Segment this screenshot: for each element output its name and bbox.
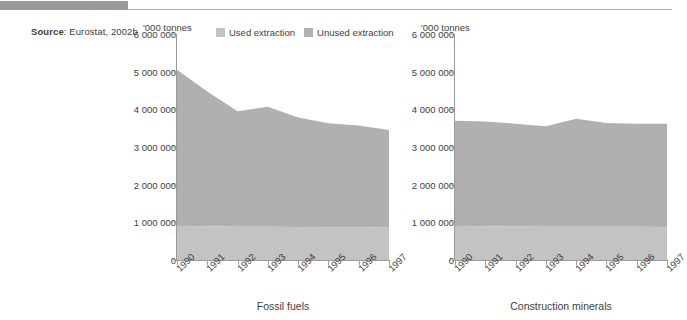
y-axis-tick-mark bbox=[172, 109, 176, 110]
y-axis-tick-mark bbox=[172, 222, 176, 223]
x-axis-tick-mark bbox=[485, 261, 486, 265]
y-axis-tick-label: 4 000 000 bbox=[412, 104, 454, 115]
x-axis-tick-mark bbox=[238, 261, 239, 265]
x-axis-tick-mark bbox=[268, 261, 269, 265]
x-axis-tick-mark bbox=[455, 261, 456, 265]
area-band-unused-extraction bbox=[455, 119, 667, 227]
x-axis-tick-mark bbox=[359, 261, 360, 265]
y-axis-tick-label: 6 000 000 bbox=[412, 29, 454, 40]
x-axis-tick-mark bbox=[667, 261, 668, 265]
y-axis-tick-label: 4 000 000 bbox=[134, 104, 176, 115]
y-axis-tick-label: 5 000 000 bbox=[134, 66, 176, 77]
x-axis-tick-mark bbox=[576, 261, 577, 265]
y-axis-tick-mark bbox=[172, 184, 176, 185]
chart-title-fossil-fuels: Fossil fuels bbox=[176, 300, 390, 312]
x-axis-tick-mark bbox=[606, 261, 607, 265]
chart-title-construction-minerals: Construction minerals bbox=[454, 300, 668, 312]
y-axis-tick-mark bbox=[450, 260, 454, 261]
x-axis-tick-mark bbox=[328, 261, 329, 265]
top-banner bbox=[0, 1, 128, 10]
x-axis-tick-mark bbox=[637, 261, 638, 265]
header-divider bbox=[128, 9, 672, 10]
y-axis-tick-label: 5 000 000 bbox=[412, 66, 454, 77]
x-axis-tick-mark bbox=[516, 261, 517, 265]
area-band-unused-extraction bbox=[177, 70, 389, 228]
source-value: Eurostat, 2002b bbox=[69, 26, 138, 37]
y-axis-tick-label: 6 000 000 bbox=[134, 29, 176, 40]
y-axis-tick-mark bbox=[450, 147, 454, 148]
y-axis-tick-label: 1 000 000 bbox=[412, 217, 454, 228]
area-series-construction-minerals bbox=[455, 34, 667, 260]
plot-area-fossil-fuels: 6 000 0005 000 0004 000 0003 000 0002 00… bbox=[140, 34, 392, 260]
y-axis-tick-mark bbox=[172, 71, 176, 72]
y-axis-tick-mark bbox=[450, 222, 454, 223]
plot-area-construction-minerals: 6 000 0005 000 0004 000 0003 000 0002 00… bbox=[418, 34, 670, 260]
source-label: Source bbox=[31, 26, 64, 37]
y-axis-tick-label: 2 000 000 bbox=[134, 179, 176, 190]
y-axis-tick-label: 3 000 000 bbox=[412, 142, 454, 153]
y-axis-tick-label: 3 000 000 bbox=[134, 142, 176, 153]
x-axis-tick-mark bbox=[298, 261, 299, 265]
y-axis-tick-label: 1 000 000 bbox=[134, 217, 176, 228]
y-axis-tick-mark bbox=[172, 34, 176, 35]
source-note: Source: Eurostat, 2002b bbox=[31, 26, 138, 37]
y-axis-tick-mark bbox=[450, 184, 454, 185]
y-axis-tick-mark bbox=[450, 109, 454, 110]
x-axis-tick-mark bbox=[389, 261, 390, 265]
y-axis-tick-mark bbox=[450, 71, 454, 72]
x-axis-tick-mark bbox=[177, 261, 178, 265]
y-axis-tick-mark bbox=[172, 147, 176, 148]
x-axis-tick-mark bbox=[546, 261, 547, 265]
y-axis-tick-label: 2 000 000 bbox=[412, 179, 454, 190]
area-series-fossil-fuels bbox=[177, 34, 389, 260]
x-axis-tick-mark bbox=[207, 261, 208, 265]
y-axis-tick-mark bbox=[450, 34, 454, 35]
y-axis-tick-mark bbox=[172, 260, 176, 261]
